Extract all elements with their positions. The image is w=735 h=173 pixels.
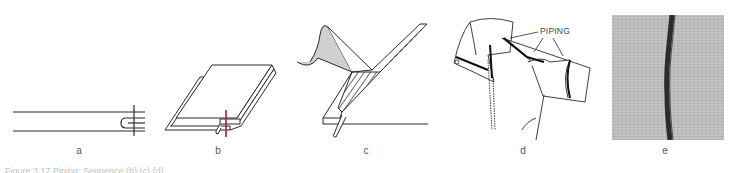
figure-caption: Figure 3.17 Piping: Sequence (b) (c) (d) [5,166,164,173]
layered-fabric-illustration [150,0,280,150]
panel-d: PIPING d [440,0,610,150]
facing-fold-illustration [280,0,450,150]
panel-label-d: d [520,145,526,156]
piping-seam-line [612,15,724,140]
piping-cross-section-illustration [0,0,160,150]
panel-c: c [280,0,450,150]
panel-label-a: a [76,145,82,156]
panel-label-b: b [215,145,221,156]
panel-label-c: c [364,145,369,156]
garment-collar-illustration [440,0,610,150]
piping-callout: PIPING [540,26,570,36]
panel-label-e: e [662,145,668,156]
panel-b: b [150,0,280,150]
figure-piping: a b [0,0,735,173]
panel-a: a [0,0,160,150]
piped-seam-photo [612,15,724,140]
